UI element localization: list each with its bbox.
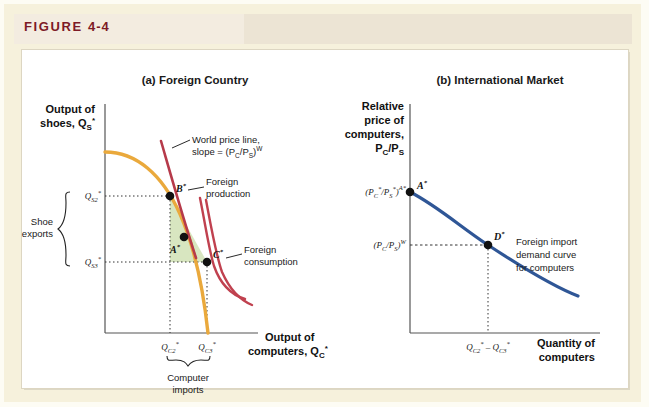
leader-world-price (172, 140, 190, 148)
panel-a: (a) Foreign Country Output of shoes, QS* (22, 74, 329, 395)
annotation-consumption-line2: consumption (244, 256, 298, 267)
tick-qc3: QC3* (198, 340, 216, 354)
point-d-star-label: D* (493, 230, 505, 242)
tick-qs2: QS2* (85, 189, 102, 203)
brace-shoe-exports-line1: Shoe (31, 216, 53, 227)
leader-foreign-production (188, 187, 204, 190)
point-b-a-star (406, 188, 415, 197)
panel-a-y-axis-label-line2: shoes, QS* (40, 116, 96, 132)
tick-qs3: QS3* (85, 255, 102, 269)
point-b-star-label: B* (175, 182, 187, 194)
point-b-a-star-label: A* (416, 179, 428, 191)
brace-shoe-exports-line2: exports (22, 228, 53, 239)
leader-foreign-consumption (226, 254, 242, 258)
panel-b: (b) International Market Relative price … (345, 74, 600, 363)
figure-root: FIGURE 4-4 (a) Foreign Country Output of… (0, 0, 649, 407)
panel-a-x-axis-label-line2: computers, QC* (248, 344, 329, 360)
panel-a-x-axis-label-line1: Output of (265, 331, 315, 343)
point-c-star (203, 258, 212, 267)
panel-a-title: (a) Foreign Country (142, 74, 249, 86)
panel-a-y-axis-star: * (92, 116, 96, 125)
panel-b-title: (b) International Market (436, 74, 563, 86)
annotation-demand-line2: demand curve (516, 249, 576, 260)
point-b-star (166, 192, 175, 201)
annotation-production-line2: production (206, 188, 250, 199)
point-c-star-label: C* (213, 248, 224, 260)
annotation-world-price-line2: slope = (PC/PS)W (192, 145, 263, 159)
annotation-consumption-line1: Foreign (244, 244, 276, 255)
annotation-production-line1: Foreign (206, 176, 238, 187)
tick-autarky-price: (PC*/PS*)A* (365, 184, 407, 199)
point-a-star (180, 233, 189, 242)
brace-computer-imports-line2: imports (172, 384, 203, 395)
annotation-demand-line1: Foreign import (516, 236, 578, 247)
figure-svg: (a) Foreign Country Output of shoes, QS* (0, 0, 649, 407)
point-d-star (484, 241, 493, 250)
panel-a-y-axis-text: shoes, Q (40, 117, 87, 129)
panel-b-x-axis-label-line2: computers (539, 351, 595, 363)
tick-qc2: QC2* (161, 340, 179, 354)
panel-b-y-axis-label-line4: PC/PS (375, 142, 405, 157)
panel-b-y-axis-label-line3: computers, (345, 128, 404, 140)
annotation-demand-line3: for computers (516, 262, 574, 273)
panel-b-y-axis-label-line1: Relative (362, 100, 404, 112)
svg-text:shoes, QS*: shoes, QS* (40, 116, 96, 132)
panel-b-x-axis-label-line1: Quantity of (537, 337, 595, 349)
tick-import-quantity: QC2* – QC3* (466, 340, 510, 354)
panel-a-y-axis-label-line1: Output of (46, 103, 96, 115)
annotation-world-price-line1: World price line, (192, 134, 260, 145)
panel-b-y-axis-label-line2: price of (364, 114, 404, 126)
brace-computer-imports-line1: Computer (167, 372, 209, 383)
tick-world-price: (PC/PS)W (373, 238, 406, 252)
brace-shoe-exports (58, 192, 70, 266)
brace-computer-imports (167, 356, 210, 366)
